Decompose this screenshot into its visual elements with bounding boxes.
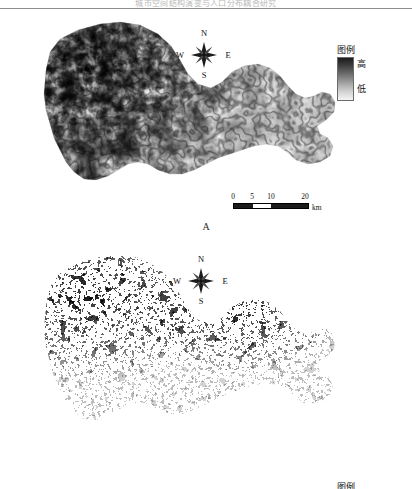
legend-label-high: 高 xyxy=(357,59,366,69)
legend-gradient-ramp xyxy=(337,57,354,101)
panel-label-a: A xyxy=(0,221,412,232)
compass-label-s: S xyxy=(199,296,204,306)
compass-label-w: W xyxy=(176,50,184,60)
compass-label-e: E xyxy=(222,276,227,286)
figure-root: 城市空间结构演变与人口分布耦合研究 xyxy=(0,0,412,489)
legend-label-low: 低 xyxy=(357,84,366,94)
compass-label-e: E xyxy=(225,50,230,60)
map-stage-b: N S E W xyxy=(8,244,338,439)
header-divider xyxy=(0,8,412,9)
compass-star-icon xyxy=(191,42,217,68)
scale-bar-a: 0 5 10 20 km xyxy=(233,192,325,218)
compass-rose-a: N S E W xyxy=(171,26,237,84)
map-panel-a: N S E W 0 5 10 20 km 图例 xyxy=(0,12,412,234)
scale-tick: 5 xyxy=(250,192,254,201)
scale-bar-unit: km xyxy=(312,203,322,212)
compass-rose-b: N S E W xyxy=(168,252,234,310)
legend-a: 图例 高 低 xyxy=(336,45,408,103)
figure-header-title: 城市空间结构演变与人口分布耦合研究 xyxy=(0,0,412,8)
compass-label-n: N xyxy=(198,254,204,264)
scale-tick: 0 xyxy=(231,192,235,201)
legend-title: 图例 xyxy=(337,482,408,489)
map-stage-a: N S E W xyxy=(8,12,338,197)
scale-bar-graphic-a xyxy=(233,203,309,209)
scale-bar-ticks-a: 0 5 10 20 xyxy=(233,192,325,202)
map-panel-b: N S E W 0 5 10 20 km 图例 xyxy=(0,234,412,489)
compass-label-s: S xyxy=(202,70,207,80)
compass-label-w: W xyxy=(173,276,181,286)
compass-star-icon xyxy=(188,268,214,294)
legend-b: 图例 降低 增加 xyxy=(336,482,408,489)
scale-tick: 20 xyxy=(301,192,309,201)
scale-tick: 10 xyxy=(267,192,275,201)
legend-title: 图例 xyxy=(337,45,408,56)
compass-label-n: N xyxy=(201,28,207,38)
